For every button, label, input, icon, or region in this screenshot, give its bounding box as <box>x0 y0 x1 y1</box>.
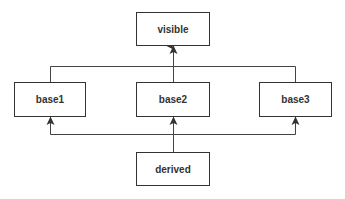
node-visible: visible <box>136 12 210 46</box>
node-base3: base3 <box>259 82 332 117</box>
node-base2: base2 <box>136 82 210 117</box>
edge-base1-visible <box>51 67 174 83</box>
node-label: derived <box>155 164 191 175</box>
node-label: visible <box>157 24 188 35</box>
node-base1: base1 <box>14 82 86 117</box>
node-derived: derived <box>136 152 210 186</box>
edge-derived-base3 <box>173 117 296 135</box>
edge-derived-base1 <box>51 117 174 135</box>
node-label: base1 <box>36 94 64 105</box>
node-label: base3 <box>281 94 309 105</box>
edge-base3-visible <box>173 67 296 83</box>
node-label: base2 <box>159 94 187 105</box>
